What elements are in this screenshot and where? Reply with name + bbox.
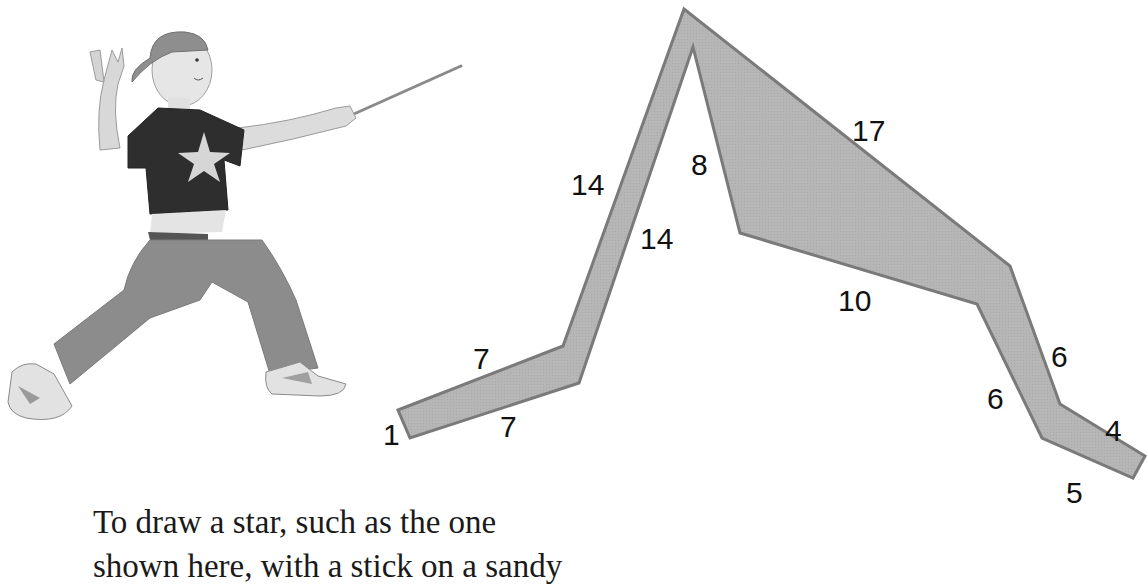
segment-label-7-upper: 7 xyxy=(473,344,490,374)
body-text-line-1: To draw a star, such as the one xyxy=(93,504,496,540)
segment-label-6-inner: 6 xyxy=(987,384,1004,414)
body-paragraph: To draw a star, such as the one shown he… xyxy=(93,500,562,588)
segment-label-6-outer: 6 xyxy=(1051,342,1068,372)
segment-label-14-inner: 14 xyxy=(640,224,673,254)
star-strip-shape xyxy=(398,9,1145,478)
segment-label-4: 4 xyxy=(1105,416,1122,446)
segment-label-10: 10 xyxy=(838,286,871,316)
body-text-line-2: shown here, with a stick on a sandy xyxy=(93,544,562,588)
segment-label-17: 17 xyxy=(852,116,885,146)
segment-label-8: 8 xyxy=(691,150,708,180)
segment-label-7-lower: 7 xyxy=(500,412,517,442)
segment-label-14-outer: 14 xyxy=(571,170,604,200)
segment-label-1: 1 xyxy=(383,420,400,450)
segment-label-5: 5 xyxy=(1066,478,1083,508)
